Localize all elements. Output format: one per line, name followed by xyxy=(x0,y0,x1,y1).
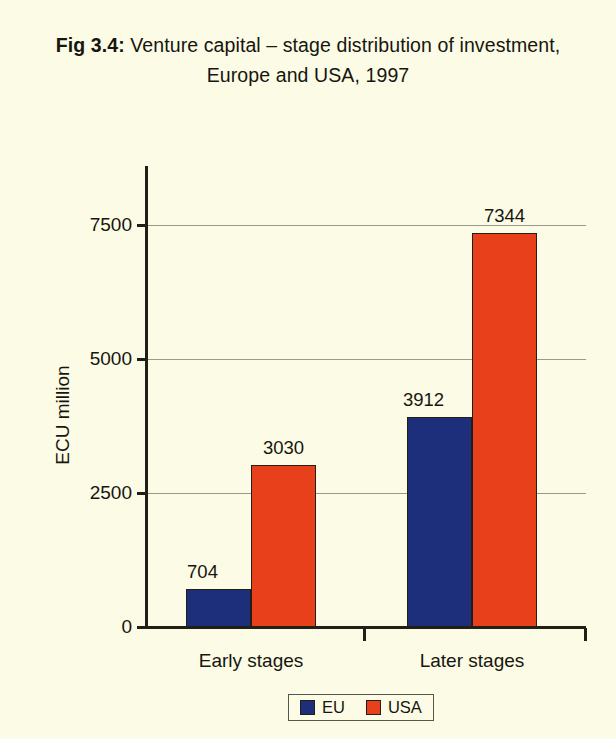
figure-title-text: Venture capital – stage distribution of … xyxy=(125,34,561,86)
bar-value-label: 3030 xyxy=(227,439,340,458)
y-axis-tick-label: 2500 xyxy=(42,483,132,502)
y-axis-tick xyxy=(137,492,148,495)
chart-figure: Fig 3.4: Venture capital – stage distrib… xyxy=(0,0,616,739)
x-axis-tick xyxy=(363,628,366,641)
legend-item-usa: USA xyxy=(366,699,422,716)
category-label: Early stages xyxy=(161,650,341,672)
bar-value-label: 3912 xyxy=(367,391,480,410)
y-axis-tick-labels: 7500500025000 xyxy=(38,0,132,739)
y-axis-tick xyxy=(137,224,148,227)
category-label: Later stages xyxy=(382,650,562,672)
chart-legend: EUUSA xyxy=(288,694,434,721)
y-axis-tick-label: 0 xyxy=(42,617,132,636)
legend-item-eu: EU xyxy=(300,699,345,716)
y-axis-tick-label: 5000 xyxy=(42,349,132,368)
legend-label: EU xyxy=(322,699,345,716)
legend-swatch-icon xyxy=(300,700,315,715)
bar-eu-2 xyxy=(407,417,472,627)
y-axis-tick-label: 7500 xyxy=(42,215,132,234)
legend-swatch-icon xyxy=(366,700,381,715)
x-axis-tick xyxy=(584,628,587,641)
bar-usa-2 xyxy=(472,233,537,627)
bar-value-label: 7344 xyxy=(448,207,561,226)
y-axis-tick xyxy=(137,626,148,629)
legend-label: USA xyxy=(388,699,422,716)
bar-value-label: 704 xyxy=(146,563,259,582)
bar-usa-1 xyxy=(251,465,316,627)
bar-eu-1 xyxy=(186,589,251,627)
y-axis-tick xyxy=(137,358,148,361)
plot-area: 704303039127344 xyxy=(145,168,586,627)
